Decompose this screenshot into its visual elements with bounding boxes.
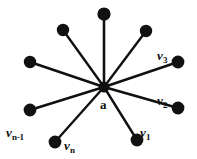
graph-node-vn <box>49 136 62 149</box>
node-label-base: v <box>157 48 163 63</box>
star-graph-canvas <box>0 0 197 159</box>
edge-group <box>30 14 178 142</box>
node-label-vn-1: vn-1 <box>6 124 24 142</box>
edge-a-n-left <box>30 62 104 87</box>
node-label-subscript: 2 <box>163 100 167 110</box>
node-label-base: v <box>140 125 146 140</box>
node-label-base: v <box>6 125 12 140</box>
edge-a-n-top-left <box>63 30 104 87</box>
node-label-subscript: n <box>70 145 75 155</box>
graph-node-vn-1 <box>24 104 37 117</box>
node-label-v3: v3 <box>157 47 167 65</box>
graph-node-n-top <box>97 7 110 20</box>
hub-node-a <box>99 82 110 93</box>
graph-node-v2 <box>172 102 185 115</box>
node-label-base: v <box>157 93 163 108</box>
graph-node-n-top-right <box>140 25 152 37</box>
graph-node-n-left <box>24 56 36 68</box>
edge-a-v3 <box>104 62 178 87</box>
node-label-subscript: 1 <box>146 132 150 142</box>
graph-node-v3 <box>172 56 185 69</box>
star-graph-figure: v3v2v1vnvn-1a <box>0 0 197 159</box>
node-label-base: v <box>64 138 70 153</box>
graph-node-n-top-left <box>57 24 69 36</box>
node-label-v1: v1 <box>140 124 150 142</box>
node-label-v2: v2 <box>157 92 167 110</box>
node-label-subscript: n-1 <box>12 132 24 142</box>
node-label-subscript: 3 <box>163 55 167 65</box>
hub-label-a: a <box>100 98 107 111</box>
node-label-vn: vn <box>64 137 75 155</box>
